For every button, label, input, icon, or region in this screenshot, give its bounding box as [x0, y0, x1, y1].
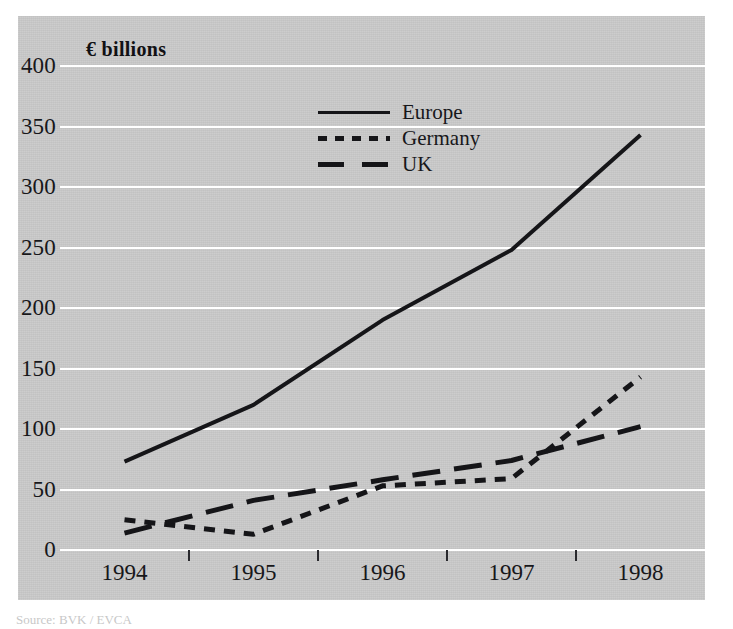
y-axis-unit-label: € billions: [86, 38, 166, 61]
chart-legend: EuropeGermanyUK: [318, 100, 508, 176]
y-axis-tick-label: 50: [33, 477, 56, 503]
y-axis-tick-label: 300: [21, 174, 56, 200]
y-axis-tick-label: 100: [21, 416, 56, 442]
y-axis-tick-labels: 400350300250200150100500: [18, 66, 56, 550]
legend-swatch-dashed: [318, 162, 390, 167]
x-axis-tick-label: 1995: [231, 560, 277, 586]
legend-item-uk: UK: [318, 152, 508, 176]
y-axis-tick-label: 350: [21, 114, 56, 140]
y-axis-tick-label: 150: [21, 356, 56, 382]
series-line-germany: [125, 377, 641, 534]
legend-item-europe: Europe: [318, 100, 508, 124]
legend-label: Germany: [402, 126, 480, 150]
series-line-europe: [125, 135, 641, 462]
y-axis-tick-label: 0: [44, 537, 56, 563]
x-axis-tick-label: 1994: [102, 560, 148, 586]
y-axis-tick-label: 400: [21, 53, 56, 79]
x-axis-tick-label: 1997: [489, 560, 535, 586]
y-axis-tick-label: 200: [21, 295, 56, 321]
x-axis-tick-label: 1998: [618, 560, 664, 586]
legend-swatch-dotted: [318, 136, 390, 141]
x-axis-tick-label: 1996: [360, 560, 406, 586]
source-note: Source: BVK / EVCA: [16, 612, 132, 628]
legend-label: UK: [402, 152, 432, 176]
chart-figure: € billions 400350300250200150100500 1994…: [0, 0, 733, 629]
legend-item-germany: Germany: [318, 126, 508, 150]
x-axis-tick-labels: 19941995199619971998: [60, 560, 705, 594]
legend-swatch-solid: [318, 111, 390, 114]
legend-label: Europe: [402, 100, 463, 124]
series-line-uk: [125, 427, 641, 533]
y-axis-tick-label: 250: [21, 235, 56, 261]
